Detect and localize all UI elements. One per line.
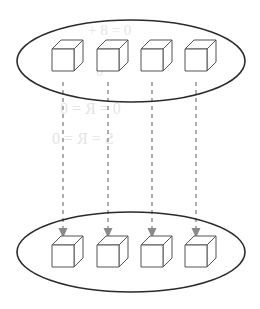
bottom-set-cube-1 (52, 236, 83, 267)
bottom-set-cube-4-front-face (185, 245, 207, 267)
top-set-cube-4-front-face (185, 49, 207, 71)
top-set-cube-1-front-face (52, 49, 74, 71)
figure-canvas: 0 = 8 +00 = R = 0S = R = 0 (0, 0, 260, 309)
bottom-set-items (52, 236, 216, 267)
arrow-layer (59, 82, 201, 238)
bottom-set-cube-4 (185, 236, 216, 267)
bottom-set-cube-3 (141, 236, 172, 267)
bottom-set-cube-3-front-face (141, 245, 163, 267)
mapping-diagram (0, 0, 260, 309)
arrow-1 (59, 82, 68, 238)
bottom-set-cube-1-front-face (52, 245, 74, 267)
bottom-set-cube-2-front-face (97, 245, 119, 267)
top-set-cube-1 (52, 40, 83, 71)
arrow-4 (192, 82, 201, 238)
arrow-2 (104, 82, 113, 238)
top-set-cube-2 (97, 40, 128, 71)
top-set-cube-4 (185, 40, 216, 71)
cube-layer (52, 40, 216, 267)
top-set-cube-3-front-face (141, 49, 163, 71)
top-set-cube-3 (141, 40, 172, 71)
top-set-cube-2-front-face (97, 49, 119, 71)
arrow-3 (148, 82, 157, 238)
top-set-items (52, 40, 216, 71)
bottom-set-cube-2 (97, 236, 128, 267)
